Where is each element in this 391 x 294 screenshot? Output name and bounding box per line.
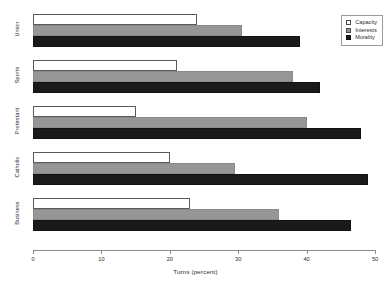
bar-chart: 01020304050 Turns (percent) CapacityInte… (0, 0, 391, 294)
bar-morality-business[interactable] (33, 220, 351, 231)
x-tick (170, 250, 171, 254)
bar-row (33, 220, 375, 231)
chart-legend: CapacityInterestsMorality (341, 15, 383, 46)
bar-row (33, 128, 375, 139)
legend-swatch-interests-icon (346, 28, 351, 33)
bar-interests-catholic[interactable] (33, 163, 235, 174)
legend-swatch-morality-icon (346, 35, 351, 40)
legend-item-capacity[interactable]: Capacity (346, 19, 377, 27)
x-tick-label: 40 (303, 256, 309, 262)
bar-interests-protestant[interactable] (33, 117, 307, 128)
x-tick (33, 250, 34, 254)
bar-capacity-protestant[interactable] (33, 106, 136, 117)
bar-interests-business[interactable] (33, 209, 279, 220)
x-tick (375, 250, 376, 254)
bar-capacity-union[interactable] (33, 14, 197, 25)
bar-group (33, 60, 375, 93)
bar-interests-union[interactable] (33, 25, 242, 36)
category-label-sports: Sports (0, 72, 34, 78)
bar-group (33, 106, 375, 139)
x-tick-label: 20 (167, 256, 173, 262)
legend-label: Interests (355, 27, 376, 35)
bar-row (33, 117, 375, 128)
x-tick (307, 250, 308, 254)
legend-swatch-capacity-icon (346, 20, 351, 25)
x-tick-label: 50 (372, 256, 378, 262)
legend-item-morality[interactable]: Morality (346, 34, 377, 42)
x-axis: 01020304050 (33, 250, 375, 251)
bar-row (33, 82, 375, 93)
bar-morality-catholic[interactable] (33, 174, 368, 185)
bar-row (33, 36, 375, 47)
bar-row (33, 209, 375, 220)
category-label-protestant: Protestant (0, 118, 34, 124)
bar-interests-sports[interactable] (33, 71, 293, 82)
legend-label: Morality (355, 34, 375, 42)
bar-morality-sports[interactable] (33, 82, 320, 93)
bar-group (33, 152, 375, 185)
bar-row (33, 163, 375, 174)
x-tick-label: 30 (235, 256, 241, 262)
bar-row (33, 152, 375, 163)
legend-item-interests[interactable]: Interests (346, 27, 377, 35)
category-label-union: Union (0, 26, 34, 32)
category-label-catholic: Catholic (0, 164, 34, 170)
bar-row (33, 174, 375, 185)
bar-capacity-catholic[interactable] (33, 152, 170, 163)
bar-capacity-business[interactable] (33, 198, 190, 209)
bar-morality-union[interactable] (33, 36, 300, 47)
bar-row (33, 60, 375, 71)
bar-capacity-sports[interactable] (33, 60, 177, 71)
bar-row (33, 71, 375, 82)
x-tick-label: 10 (98, 256, 104, 262)
category-label-business: Business (0, 210, 34, 216)
x-tick (101, 250, 102, 254)
bar-row (33, 25, 375, 36)
bar-row (33, 198, 375, 209)
legend-label: Capacity (355, 19, 377, 27)
bar-group (33, 14, 375, 47)
x-tick-label: 0 (31, 256, 34, 262)
bar-row (33, 106, 375, 117)
bar-group (33, 198, 375, 231)
bar-morality-protestant[interactable] (33, 128, 361, 139)
plot-area (33, 12, 375, 250)
bar-row (33, 14, 375, 25)
x-tick (238, 250, 239, 254)
x-axis-title: Turns (percent) (0, 268, 391, 275)
